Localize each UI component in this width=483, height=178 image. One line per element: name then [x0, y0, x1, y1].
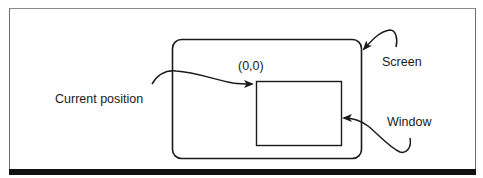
screen-label: Screen [382, 56, 422, 69]
current-position-label: Current position [55, 93, 143, 106]
diagram-canvas [0, 0, 483, 178]
window-label: Window [387, 116, 431, 129]
window-rectangle [257, 82, 342, 146]
screen-rectangle [173, 40, 362, 159]
origin-label: (0,0) [238, 60, 264, 73]
screen-arrow [364, 30, 397, 49]
current-position-arrow [152, 71, 252, 84]
